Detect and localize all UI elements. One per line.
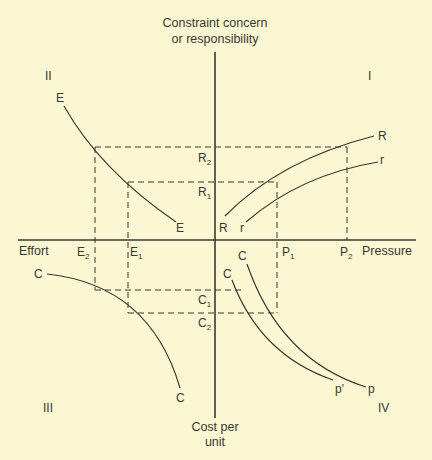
- y-axis-bottom-label-1: Cost per: [191, 420, 238, 434]
- curve-c-p-end-label: p: [368, 382, 375, 396]
- curve-c-iii-end-label: C: [176, 391, 185, 405]
- x-axis-left-label: Effort: [19, 244, 49, 258]
- curve-e-end-label: E: [176, 221, 184, 235]
- point-label-r2: R2: [198, 151, 212, 167]
- curve-c-p-start-label: C: [238, 249, 247, 263]
- curve-r-end-label: R: [378, 129, 387, 143]
- x-axis-right-label: Pressure: [362, 244, 412, 258]
- point-label-r1: R1: [198, 185, 212, 201]
- y-axis-top-label-1: Constraint concern: [163, 16, 268, 30]
- curve-c-p-prime-end-label: p': [335, 382, 344, 396]
- quadrant-label-iv: IV: [378, 401, 389, 415]
- quadrant-label-ii: II: [45, 69, 52, 83]
- curve-r-small-end-label: r: [380, 153, 384, 167]
- y-axis-top-label-2: or responsibility: [172, 32, 260, 46]
- y-axis-bottom-label-2: unit: [205, 435, 226, 449]
- point-label-c1: C1: [198, 293, 212, 309]
- curve-e: [64, 106, 176, 222]
- curve-r-small: [246, 162, 378, 222]
- curve-e-start-label: E: [56, 91, 64, 105]
- curve-c-quadrant-iii: [47, 274, 180, 388]
- curve-c-p-prime-start-label: C: [223, 267, 232, 281]
- point-label-e1: E1: [130, 245, 143, 261]
- quadrant-label-i: I: [368, 69, 371, 83]
- point-label-p1: P1: [282, 245, 295, 261]
- curve-r-start-label: R: [219, 221, 228, 235]
- four-quadrant-diagram: Constraint concern or responsibility Cos…: [0, 0, 432, 460]
- curve-r: [225, 136, 374, 216]
- point-label-c2: C2: [198, 316, 212, 332]
- curve-r-small-start-label: r: [240, 221, 244, 235]
- point-label-p2: P2: [340, 245, 353, 261]
- point-label-e2: E2: [77, 245, 90, 261]
- curve-c-iii-start-label: C: [34, 267, 43, 281]
- quadrant-label-iii: III: [43, 401, 53, 415]
